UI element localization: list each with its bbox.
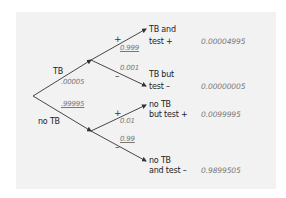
outcome-line2: but test +: [149, 110, 187, 119]
tb-positive-sign: +: [114, 35, 122, 44]
outcome-line1: no TB: [149, 100, 171, 109]
outcome-line2: test –: [149, 82, 170, 91]
tb-probability: .00005: [61, 78, 84, 86]
joint-probability: 0.0099995: [201, 110, 241, 119]
tb-negative-sign: –: [115, 72, 120, 81]
no-tb-probability: .99995: [61, 100, 84, 108]
tree-branches: [0, 0, 286, 198]
no-tb-label: no TB: [38, 117, 60, 126]
outcome-line1: TB but: [149, 70, 174, 79]
outcome-line1: TB and: [149, 25, 176, 34]
no-tb-negative-probability: 0.99: [120, 135, 135, 143]
outcome-line1: no TB: [149, 156, 171, 165]
joint-probability: 0.00004995: [201, 37, 245, 46]
no-tb-negative-sign: –: [115, 143, 120, 152]
tb-label: TB: [53, 67, 63, 76]
joint-probability: 0.00000005: [201, 82, 245, 91]
outcome-line2: test +: [149, 37, 172, 46]
no-tb-positive-probability: 0.01: [120, 117, 135, 125]
tb-positive-probability: 0.999: [120, 44, 139, 52]
outcome-line2: and test –: [149, 166, 187, 175]
tb-negative-probability: 0.001: [120, 64, 139, 72]
joint-probability: 0.9899505: [201, 166, 241, 175]
